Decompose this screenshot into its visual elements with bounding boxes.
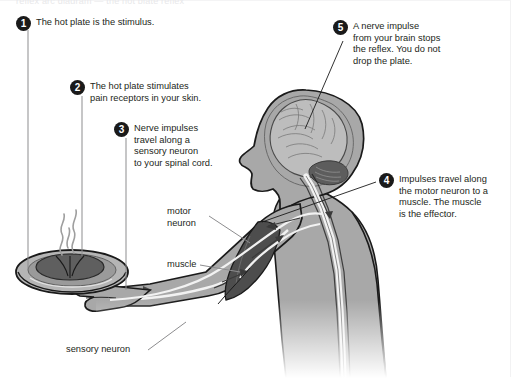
callout-text-2: The hot plate stimulates pain receptors …	[90, 80, 201, 104]
biceps-muscle	[225, 221, 280, 300]
callout-bullet-3: 3	[114, 122, 129, 137]
callout-bullet-5: 5	[333, 20, 348, 35]
callout-sensory-neuron: 3 Nerve impulses travel along a sensory …	[114, 122, 213, 169]
reflex-arc-figure: reflex arc diagram — the hot plate refle…	[0, 0, 512, 378]
callout-motor-neuron: 4 Impulses travel along the motor neuron…	[379, 173, 488, 220]
head-shape	[240, 90, 364, 212]
callout-bullet-4: 4	[379, 173, 394, 188]
leader-line-4	[262, 182, 376, 222]
callout-brain-inhibition: 5 A nerve impulse from your brain stops …	[333, 20, 440, 67]
steam-shape	[60, 210, 76, 255]
callout-pain-receptors: 2 The hot plate stimulates pain receptor…	[70, 80, 201, 104]
nerve-pathways	[110, 213, 322, 304]
callout-text-1: The hot plate is the stimulus.	[36, 16, 154, 29]
arm-shape	[95, 204, 302, 306]
leader-line-sensory-neuron	[148, 322, 186, 350]
leader-line-motor-neuron	[209, 216, 250, 243]
spinal-cord	[300, 174, 350, 378]
hand-shape	[74, 280, 150, 312]
callout-text-5: A nerve impulse from your brain stops th…	[353, 20, 440, 67]
clipped-caption-text: reflex arc diagram — the hot plate refle…	[16, 0, 476, 4]
callout-text-3: Nerve impulses travel along a sensory ne…	[134, 122, 213, 169]
label-motor-neuron: motor neuron	[167, 206, 196, 229]
leader-line-muscle	[200, 265, 240, 272]
callout-bullet-1: 1	[16, 16, 31, 31]
plate-shape	[16, 250, 128, 294]
brain-shape	[270, 99, 348, 184]
label-sensory-neuron: sensory neuron	[66, 344, 130, 356]
callout-bullet-2: 2	[70, 80, 85, 95]
callout-text-4: Impulses travel along the motor neuron t…	[399, 173, 488, 220]
label-muscle: muscle	[167, 259, 196, 271]
callout-stimulus: 1 The hot plate is the stimulus.	[16, 16, 154, 31]
torso-shape	[273, 186, 386, 378]
